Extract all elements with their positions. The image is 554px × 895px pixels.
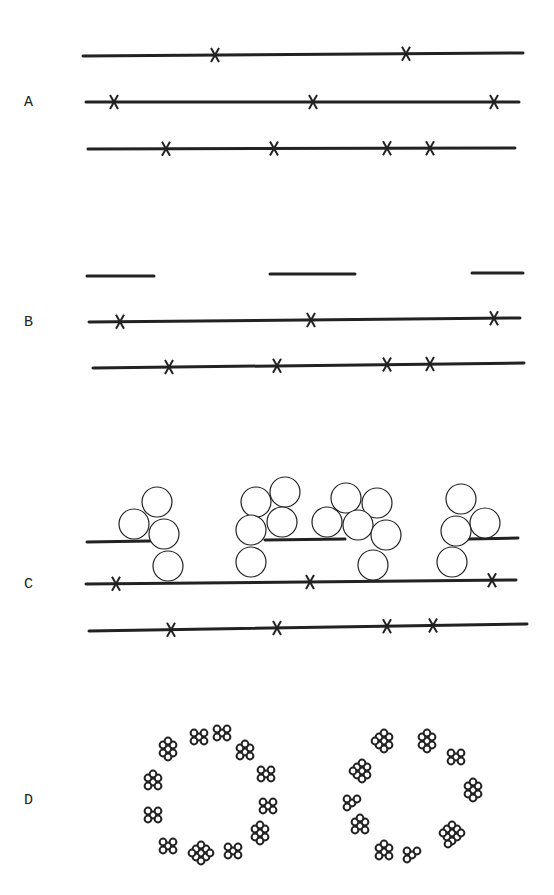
particle-circle — [236, 547, 266, 577]
subunit-circle — [165, 738, 172, 745]
particle-cluster — [160, 738, 177, 761]
particle-circle — [153, 551, 183, 581]
particle-cluster — [440, 822, 465, 848]
particle-cluster — [237, 741, 254, 760]
subunit-circle — [381, 746, 388, 753]
particle-cluster — [419, 730, 436, 753]
subunit-circle — [270, 799, 277, 806]
subunit-circle — [214, 726, 221, 733]
subunit-circle — [198, 858, 205, 865]
subunit-circle — [160, 847, 167, 854]
particle-circle — [270, 477, 300, 507]
panel-label-c: C — [24, 576, 33, 593]
subunit-circle — [155, 816, 162, 823]
subunit-circle — [260, 807, 267, 814]
particle-circle — [437, 547, 467, 577]
subunit-circle — [359, 776, 366, 783]
subunit-circle — [201, 730, 208, 737]
subunit-circle — [225, 844, 232, 851]
particle-cluster — [189, 842, 214, 865]
subunit-circle — [270, 807, 277, 814]
subunit-circle — [237, 753, 244, 760]
segment-c — [265, 539, 345, 540]
subunit-circle — [224, 734, 231, 741]
subunit-circle — [344, 796, 351, 803]
subunit-circle — [445, 841, 452, 848]
subunit-circle — [376, 853, 383, 860]
particle-cluster — [160, 839, 177, 854]
subunit-circle — [470, 779, 477, 786]
subunit-circle — [470, 795, 477, 802]
particle-circle — [371, 520, 401, 550]
subunit-circle — [449, 822, 456, 829]
particle-cluster — [145, 808, 162, 823]
subunit-circle — [260, 799, 267, 806]
subunit-circle — [448, 750, 455, 757]
subunit-circle — [165, 754, 172, 761]
particle-cluster — [344, 796, 361, 811]
subunit-circle — [235, 844, 242, 851]
subunit-circle — [225, 852, 232, 859]
subunit-circle — [458, 750, 465, 757]
particle-circle — [267, 507, 297, 537]
particle-circle — [441, 516, 471, 546]
subunit-circle — [191, 730, 198, 737]
subunit-circle — [448, 758, 455, 765]
particle-cluster — [258, 767, 275, 782]
line-a-2 — [86, 95, 519, 109]
subunit-circle — [404, 856, 411, 863]
subunit-circle — [258, 767, 265, 774]
subunit-circle — [191, 738, 198, 745]
subunit-circle — [458, 758, 465, 765]
subunit-circle — [404, 848, 411, 855]
subunit-circle — [145, 816, 152, 823]
subunit-circle — [381, 841, 388, 848]
chromosome-line — [88, 148, 515, 149]
subunit-circle — [189, 850, 196, 857]
subunit-circle — [350, 768, 357, 775]
particle-cluster — [350, 760, 371, 783]
line-a-3 — [88, 141, 515, 156]
particle-circle — [241, 487, 271, 517]
subunit-circle — [258, 775, 265, 782]
particle-circle — [470, 508, 500, 538]
subunit-circle — [344, 804, 351, 811]
subunit-circle — [414, 848, 421, 855]
subunit-circle — [381, 730, 388, 737]
subunit-circle — [224, 726, 231, 733]
particle-circle — [446, 484, 476, 514]
subunit-circle — [198, 842, 205, 849]
particle-cluster — [225, 844, 242, 859]
panel-label-d: D — [24, 792, 33, 809]
line-b-1 — [89, 311, 520, 328]
particle-cluster — [191, 730, 208, 745]
subunit-circle — [214, 734, 221, 741]
segment-c — [468, 538, 518, 539]
subunit-circle — [362, 827, 369, 834]
particle-cluster — [214, 726, 231, 741]
line-a-1 — [83, 47, 523, 62]
subunit-circle — [145, 808, 152, 815]
subunit-circle — [257, 838, 264, 845]
chromosome-line — [89, 318, 520, 322]
particle-circle — [343, 510, 373, 540]
diagram-canvas — [0, 0, 554, 895]
subunit-circle — [207, 850, 214, 857]
particle-cluster — [145, 771, 162, 790]
subunit-circle — [150, 771, 157, 778]
panel-label-b: B — [24, 314, 33, 331]
diagram: A B C D — [0, 0, 554, 895]
subunit-circle — [424, 730, 431, 737]
subunit-circle — [160, 839, 167, 846]
subunit-circle — [201, 738, 208, 745]
subunit-circle — [155, 808, 162, 815]
particle-cluster — [376, 841, 393, 860]
subunit-circle — [242, 741, 249, 748]
particle-circle — [119, 509, 149, 539]
segment-c — [87, 541, 150, 542]
subunit-circle — [247, 753, 254, 760]
particle-circle — [149, 519, 179, 549]
chromosome-line — [86, 580, 516, 584]
subunit-circle — [357, 815, 364, 822]
subunit-circle — [359, 760, 366, 767]
